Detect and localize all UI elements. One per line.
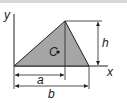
y-axis-label: y [3,8,11,22]
triangle-shape [14,21,89,66]
a-label: a [37,73,44,87]
triangle-diagram: y x C h a b [0,0,127,103]
x-axis-label: x [106,65,114,79]
b-label: b [48,87,55,101]
height-label: h [102,36,109,50]
centroid-label: C [49,45,58,59]
